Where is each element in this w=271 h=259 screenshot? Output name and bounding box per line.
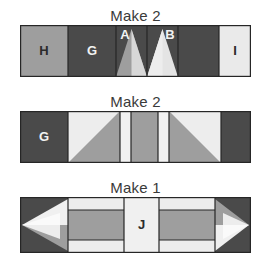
row-3-group: Make 1 J [0, 178, 271, 253]
arrow-unit-left [20, 197, 68, 253]
row-2-label: Make 2 [0, 92, 271, 111]
half-square-triangle-right [169, 111, 221, 163]
block-plain-dark [178, 25, 219, 77]
block-j-letter: J [138, 217, 145, 232]
block-h: H [20, 25, 68, 77]
block-plain-dark [221, 111, 251, 163]
half-square-triangle-left [68, 111, 120, 163]
row-1-group: Make 2 H G A [0, 6, 271, 77]
strip-stack-left [68, 197, 124, 253]
center-bar [131, 111, 158, 163]
block-b-letter: B [165, 27, 174, 42]
row-1-svg: H G A B [20, 25, 251, 77]
block-j: J [124, 197, 159, 253]
block-g-letter: G [39, 129, 49, 144]
block-i-letter: I [233, 43, 237, 58]
row-2-svg: G [20, 111, 251, 163]
row-2-strip: G [20, 111, 251, 163]
row-3-label: Make 1 [0, 178, 271, 197]
narrow-strip-left [120, 111, 131, 163]
block-b: B [147, 25, 178, 77]
strip-stack-right [159, 197, 215, 253]
row-2-group: Make 2 G [0, 92, 271, 163]
row-1-strip: H G A B [20, 25, 251, 77]
row-3-svg: J [20, 197, 251, 253]
block-i: I [219, 25, 251, 77]
narrow-strip-right [158, 111, 169, 163]
arrow-unit-right [215, 197, 251, 253]
block-g: G [68, 25, 116, 77]
row-3-strip: J [20, 197, 251, 253]
row-1-label: Make 2 [0, 6, 271, 25]
block-a: A [116, 25, 147, 77]
quilt-block-diagram: Make 2 H G A [0, 0, 271, 259]
block-h-letter: H [39, 43, 48, 58]
block-g-letter: G [87, 43, 97, 58]
block-g: G [20, 111, 68, 163]
block-a-letter: A [120, 27, 130, 42]
